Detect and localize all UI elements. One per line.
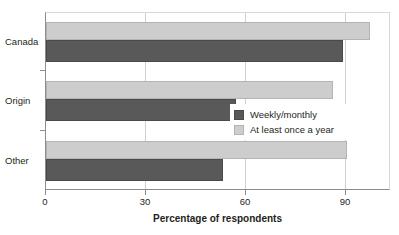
bar-chart: Canada Origin Other Weekly/monthly At le… xyxy=(0,0,399,235)
x-axis-tick-0 xyxy=(45,190,46,195)
y-axis-category-labels: Canada Origin Other xyxy=(0,12,45,190)
bar-canada-at-least-once-a-year xyxy=(46,22,370,40)
category-label-canada: Canada xyxy=(1,36,45,47)
x-axis-tick-label-90: 90 xyxy=(340,196,351,208)
x-axis-tick-labels: 0 30 60 90 xyxy=(45,196,390,210)
bar-canada-weekly-monthly xyxy=(46,40,343,62)
legend-label-at-least-once-a-year: At least once a year xyxy=(250,124,334,135)
legend-label-weekly-monthly: Weekly/monthly xyxy=(250,109,317,120)
x-axis-title: Percentage of respondents xyxy=(45,212,390,225)
legend-swatch-icon-at-least-once-a-year xyxy=(234,125,244,135)
x-axis-tick-90 xyxy=(345,190,346,195)
legend-item-at-least-once-a-year: At least once a year xyxy=(234,122,358,137)
x-axis-tick-label-60: 60 xyxy=(240,196,251,208)
x-axis-tick-60 xyxy=(245,190,246,195)
legend: Weekly/monthly At least once a year xyxy=(230,104,362,140)
bar-origin-at-least-once-a-year xyxy=(46,81,333,99)
plot-area xyxy=(45,12,390,190)
x-axis-tick-label-30: 30 xyxy=(140,196,151,208)
category-label-origin: Origin xyxy=(1,95,45,106)
bar-origin-weekly-monthly xyxy=(46,99,236,121)
legend-swatch-icon-weekly-monthly xyxy=(234,110,244,120)
x-axis-tick-label-0: 0 xyxy=(42,196,47,208)
bar-other-weekly-monthly xyxy=(46,159,223,181)
x-axis-tick-30 xyxy=(145,190,146,195)
bar-other-at-least-once-a-year xyxy=(46,141,347,159)
legend-item-weekly-monthly: Weekly/monthly xyxy=(234,107,358,122)
category-label-other: Other xyxy=(1,155,45,166)
